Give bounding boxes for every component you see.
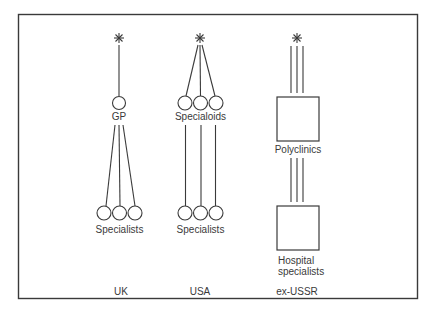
specialist-node	[178, 206, 192, 220]
health-systems-diagram: GP Specialists UK Specialoids Specialist	[0, 0, 436, 323]
asterisk-icon	[114, 33, 124, 43]
specialist-node	[97, 206, 111, 220]
gp-node	[113, 97, 126, 110]
asterisk-icon	[195, 33, 205, 43]
entry-link	[186, 45, 198, 96]
specialoid-node	[178, 96, 192, 110]
specialoid-node	[209, 96, 223, 110]
hospital-specialists-node	[277, 206, 319, 250]
column-uk: GP Specialists UK	[96, 33, 144, 297]
gp-label: GP	[112, 111, 127, 122]
specialoids-label: Specialoids	[175, 111, 226, 122]
specialoid-node	[194, 96, 208, 110]
asterisk-icon	[292, 33, 302, 43]
entry-link	[200, 45, 201, 96]
referral-link	[106, 125, 115, 206]
country-label-usa: USA	[190, 286, 211, 297]
specialist-node	[128, 206, 142, 220]
specialists-label: Specialists	[96, 224, 144, 235]
polyclinics-node	[277, 97, 319, 141]
country-label-uk: UK	[114, 286, 128, 297]
diagram-frame	[19, 15, 418, 299]
hospital-specialists-label-line2: specialists	[278, 266, 324, 277]
country-label-ex-ussr: ex-USSR	[276, 286, 318, 297]
column-usa: Specialoids Specialists USA	[175, 33, 226, 297]
referral-link	[123, 125, 135, 206]
specialist-node	[113, 206, 127, 220]
hospital-specialists-label-line1: Hospital	[278, 255, 314, 266]
entry-link	[202, 45, 215, 96]
specialists-label: Specialists	[177, 224, 225, 235]
column-ex-ussr: Polyclinics Hospital specialists ex-USSR	[275, 33, 324, 297]
referral-link	[119, 125, 120, 206]
polyclinics-label: Polyclinics	[275, 144, 322, 155]
specialist-node	[209, 206, 223, 220]
specialist-node	[194, 206, 208, 220]
